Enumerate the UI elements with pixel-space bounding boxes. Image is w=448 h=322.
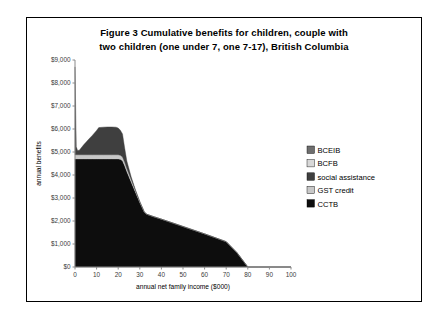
figure-frame: Figure 3 Cumulative benefits for childre… xyxy=(26,17,422,302)
legend-swatch-social-assistance xyxy=(307,173,315,181)
y-axis-tick-label: $7,000 xyxy=(51,102,71,109)
x-axis-tick-label: 30 xyxy=(136,271,144,278)
x-axis-tick-label: 90 xyxy=(266,271,274,278)
legend-label-social-assistance: social assistance xyxy=(318,173,375,182)
y-axis-tick-label: $3,000 xyxy=(51,194,71,201)
y-axis-tick-label: $1,000 xyxy=(51,240,71,247)
x-axis-tick-label: 80 xyxy=(244,271,252,278)
y-axis-tick-label: $5,000 xyxy=(51,148,71,155)
x-axis-title: annual net family income ($000) xyxy=(136,283,230,291)
y-axis-tick-label: $4,000 xyxy=(51,171,71,178)
y-axis-tick-labels: $0$1,000$2,000$3,000$4,000$5,000$6,000$7… xyxy=(51,56,71,270)
y-axis-title: annual benefits xyxy=(35,140,42,185)
legend-swatch-gst-credit xyxy=(307,186,315,194)
benefits-area-chart: 0102030405060708090100 $0$1,000$2,000$3,… xyxy=(27,18,421,301)
x-axis-tick-label: 10 xyxy=(93,271,101,278)
legend-label-bceib: BCEIB xyxy=(318,146,341,155)
legend-swatch-bceib xyxy=(307,146,315,154)
x-axis-tick-label: 60 xyxy=(201,271,209,278)
legend-swatch-cctb xyxy=(307,200,315,208)
x-axis-tick-label: 70 xyxy=(223,271,231,278)
area-series-cctb xyxy=(75,159,291,267)
legend-swatch-bcfb xyxy=(307,159,315,167)
x-axis-tick-label: 0 xyxy=(73,271,77,278)
chart-legend: BCEIBBCFBsocial assistanceGST creditCCTB xyxy=(307,146,375,209)
legend-label-gst-credit: GST credit xyxy=(318,186,355,195)
y-axis-tick-label: $8,000 xyxy=(51,79,71,86)
x-axis-tick-label: 40 xyxy=(158,271,166,278)
y-axis-tick-label: $2,000 xyxy=(51,217,71,224)
x-axis-tick-label: 100 xyxy=(286,271,297,278)
x-axis-tick-label: 20 xyxy=(115,271,123,278)
x-axis-tick-label: 50 xyxy=(179,271,187,278)
series-layer xyxy=(75,67,291,267)
x-axis-tick-labels: 0102030405060708090100 xyxy=(73,271,297,278)
y-axis-tick-label: $0 xyxy=(63,263,71,270)
y-axis-tick-label: $9,000 xyxy=(51,56,71,63)
y-axis-tick-label: $6,000 xyxy=(51,125,71,132)
legend-label-bcfb: BCFB xyxy=(318,159,338,168)
legend-label-cctb: CCTB xyxy=(318,200,339,209)
